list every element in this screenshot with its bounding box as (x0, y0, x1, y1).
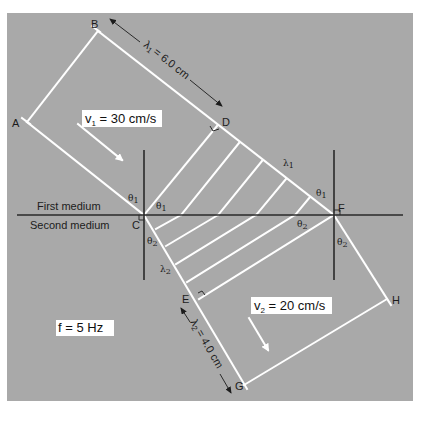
label-A: A (12, 117, 20, 129)
second-medium-label: Second medium (30, 219, 110, 231)
label-H: H (392, 294, 400, 306)
label-D: D (222, 116, 230, 128)
refraction-diagram: A B C D E F G H First medium Second medi… (0, 0, 428, 421)
label-F: F (338, 202, 345, 214)
v1-box: v1 = 30 cm/s (82, 110, 162, 128)
v1-text: v1 = 30 cm/s (85, 111, 157, 128)
v2-box: v2 = 20 cm/s (251, 297, 332, 315)
first-medium-label: First medium (37, 200, 101, 212)
label-E: E (182, 293, 189, 305)
label-C: C (132, 219, 140, 231)
frequency-box: f = 5 Hz (56, 320, 114, 336)
label-G: G (235, 380, 244, 392)
v2-text: v2 = 20 cm/s (254, 298, 326, 315)
label-B: B (91, 18, 98, 30)
frequency-text: f = 5 Hz (58, 320, 103, 335)
